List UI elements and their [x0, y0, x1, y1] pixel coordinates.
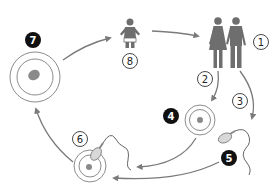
woman-icon — [209, 17, 227, 68]
arrow-egg-to-fertilization — [138, 138, 196, 167]
zygote-cell — [10, 52, 60, 102]
step-badge-6: 6 — [73, 132, 88, 147]
egg-cell — [185, 105, 215, 135]
step-badge-4: 4 — [163, 108, 179, 124]
zygote-nucleus-icon — [26, 68, 41, 83]
infant-icon — [120, 19, 140, 49]
arrow-infant-to-adults — [152, 31, 198, 36]
egg-nucleus-icon — [197, 117, 203, 123]
step-badge-3: 3 — [233, 94, 248, 109]
step-label-2: 2 — [202, 74, 208, 85]
adult-couple-icon — [209, 17, 246, 68]
arrow-sperm-to-fertilization — [114, 162, 219, 179]
step-label-3: 3 — [237, 96, 243, 107]
arrow-fertilization-to-zygote — [36, 109, 73, 162]
step-badge-7: 7 — [25, 32, 41, 48]
step-label-6: 6 — [77, 134, 83, 145]
step-badge-8: 8 — [123, 54, 138, 69]
step-badge-1: 1 — [254, 35, 269, 50]
step-label-5: 5 — [226, 153, 233, 164]
fertilizing-sperm-icon — [88, 135, 131, 170]
step-label-1: 1 — [258, 37, 264, 48]
fertilization-nucleus-icon — [86, 164, 92, 170]
arrow-zygote-to-infant — [63, 38, 110, 60]
life-cycle-diagram: 7 8 — [0, 0, 280, 191]
step-label-7: 7 — [30, 35, 37, 46]
arrow-adult-to-egg — [212, 71, 218, 100]
step-badge-2: 2 — [198, 72, 213, 87]
step-badge-5: 5 — [221, 150, 237, 166]
step-label-8: 8 — [127, 56, 133, 67]
man-icon — [226, 17, 246, 68]
step-label-4: 4 — [168, 111, 175, 122]
